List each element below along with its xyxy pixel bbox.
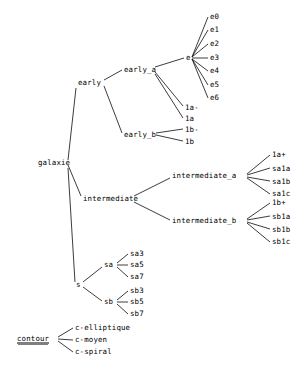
- tree-edge: [192, 30, 208, 57]
- tree-node-1a-: 1a-: [185, 104, 199, 112]
- tree-node-sb7: sb7: [130, 310, 144, 318]
- tree-edge: [104, 70, 122, 80]
- tree-node-sb1c: sb1c: [272, 238, 290, 246]
- tree-node-e1: e1: [210, 26, 219, 34]
- tree-edge: [117, 291, 128, 300]
- tree-edge: [155, 72, 183, 106]
- tree-edge: [192, 59, 208, 85]
- tree-node-early_b: early_b: [124, 131, 156, 139]
- tree-node-early_a: early_a: [124, 66, 156, 74]
- tree-edge: [117, 267, 128, 277]
- tree-edges-layer: [0, 0, 304, 375]
- tree-edge: [156, 135, 183, 141]
- tree-node-sa3: sa3: [130, 250, 144, 258]
- tree-node-e4: e4: [210, 67, 219, 75]
- tree-edge: [58, 341, 73, 352]
- tree-edge: [104, 86, 122, 133]
- tree-node-sa7: sa7: [130, 273, 144, 281]
- tree-edge: [68, 88, 76, 160]
- tree-edge: [155, 58, 184, 67]
- tree-node-sa1c: sa1c: [272, 190, 290, 198]
- tree-edge: [83, 287, 102, 301]
- tree-node-contour[interactable]: contour: [17, 335, 49, 344]
- tree-node-e6: e6: [210, 94, 219, 102]
- tree-node-c-moyen: c-moyen: [75, 336, 107, 344]
- tree-edge: [134, 202, 170, 220]
- tree-node-e2: e2: [210, 40, 219, 48]
- tree-node-early: early: [78, 79, 101, 87]
- tree-node-e: e: [186, 54, 191, 62]
- tree-node-galaxie: galaxie: [38, 159, 70, 167]
- edges-group: [58, 17, 270, 352]
- tree-edge: [68, 168, 75, 282]
- tree-node-sb1a: sb1a: [272, 213, 290, 221]
- tree-node-c-spiral: c-spiral: [75, 348, 112, 356]
- tree-node-sb3: sb3: [130, 287, 144, 295]
- tree-node-sb5: sb5: [130, 298, 144, 306]
- tree-node-sa: sa: [104, 261, 113, 269]
- tree-node-1b: 1b: [185, 138, 194, 146]
- tree-node-e3: e3: [210, 54, 219, 62]
- tree-node-1b-: 1b-: [185, 126, 199, 134]
- tree-node-s: s: [76, 281, 81, 289]
- tree-edge: [58, 339, 73, 340]
- tree-node-1b+: 1b+: [272, 199, 286, 207]
- tree-node-intermediate_b: intermediate_b: [172, 217, 236, 225]
- tree-edge: [155, 74, 183, 118]
- tree-node-1a: 1a: [185, 115, 194, 123]
- tree-edge: [58, 328, 73, 337]
- tree-node-sa1b: sa1b: [272, 178, 290, 186]
- tree-edge: [134, 178, 170, 196]
- tree-diagram: galaxieearlyearly_aearly_bee0e1e2e3e4e5e…: [0, 0, 304, 375]
- tree-node-c-elliptique: c-elliptique: [75, 324, 130, 332]
- tree-edge: [68, 165, 81, 196]
- tree-edge: [117, 304, 128, 314]
- tree-node-e5: e5: [210, 81, 219, 89]
- tree-node-sa5: sa5: [130, 261, 144, 269]
- tree-node-intermediate: intermediate: [83, 195, 138, 203]
- tree-node-e0: e0: [210, 13, 219, 21]
- tree-edge: [83, 267, 102, 282]
- tree-edge: [117, 254, 128, 263]
- tree-node-sa1a: sa1a: [272, 165, 290, 173]
- tree-node-intermediate_a: intermediate_a: [172, 172, 236, 180]
- tree-node-sb1b: sb1b: [272, 226, 290, 234]
- tree-node-1a+: 1a+: [272, 151, 286, 159]
- tree-edge: [156, 129, 183, 133]
- tree-node-sb: sb: [104, 298, 113, 306]
